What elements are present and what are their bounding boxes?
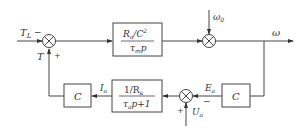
ua-sign: + [177,106,184,115]
tl-sign: − [34,27,42,37]
ua-label: Ua [192,107,204,118]
mech-denominator: τmp [130,43,147,54]
c-left-label: C [74,91,82,102]
mech-numerator: Ra/C2 [122,27,147,40]
elec-numerator: 1/Ra [124,85,144,96]
omega0-label: ω0 [213,12,224,23]
block-diagram: TL − T + Ra/C2 τmp ω0 ω 1/Ra τap+1 C C I… [0,0,302,133]
omega-label: ω [272,27,280,38]
elec-denominator: τap+1 [123,99,151,110]
ea-label: Ea [204,83,216,94]
ia-label: Ia [99,83,108,94]
t-label: T [37,51,45,62]
tl-label: TL [20,27,32,40]
ea-sign: − [203,96,211,106]
t-sign: + [54,51,61,60]
c-right-label: C [232,91,240,102]
